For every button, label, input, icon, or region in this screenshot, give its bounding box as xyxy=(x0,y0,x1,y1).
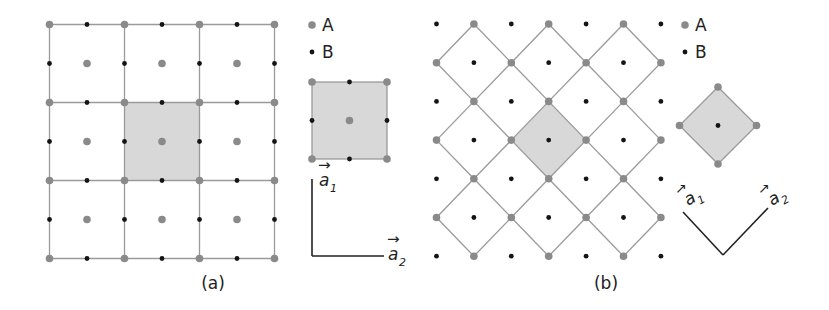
site-a xyxy=(233,216,241,224)
site-a xyxy=(233,60,241,68)
legend-a-dot xyxy=(308,21,316,29)
site-b xyxy=(546,138,551,143)
panel-b-legend: A B xyxy=(681,15,707,62)
site-a xyxy=(545,98,553,106)
panel-b-unit-cell xyxy=(676,83,761,168)
axis-a1-line xyxy=(683,212,723,255)
site-b xyxy=(272,139,277,144)
grid-line xyxy=(474,140,511,179)
site-a xyxy=(714,160,722,168)
panel-b-caption: (b) xyxy=(594,273,618,293)
site-b xyxy=(659,176,664,181)
grid-line xyxy=(549,179,586,218)
site-b xyxy=(235,256,240,261)
site-b xyxy=(47,217,52,222)
grid-line xyxy=(549,24,586,63)
site-b xyxy=(584,254,589,259)
panel-a-legend: A B xyxy=(308,15,334,62)
site-b xyxy=(584,22,589,27)
site-a xyxy=(196,99,204,107)
legend-b-dot xyxy=(683,50,688,55)
site-b xyxy=(621,215,626,220)
site-a xyxy=(508,214,516,222)
site-b xyxy=(716,123,721,128)
site-a xyxy=(271,177,279,185)
panel-a-caption: (a) xyxy=(201,273,225,293)
site-b xyxy=(122,139,127,144)
site-a xyxy=(470,20,478,28)
site-a xyxy=(582,136,590,144)
panel-b-axes: a 1 → a 2 → xyxy=(671,178,792,255)
site-a xyxy=(196,255,204,263)
site-a xyxy=(714,83,722,91)
site-a xyxy=(233,138,241,146)
site-b xyxy=(509,99,514,104)
site-b xyxy=(621,138,626,143)
site-a xyxy=(121,21,129,29)
site-b xyxy=(160,22,165,27)
site-a xyxy=(657,59,665,67)
site-b xyxy=(509,22,514,27)
site-b xyxy=(197,217,202,222)
site-a xyxy=(158,216,166,224)
site-a xyxy=(121,99,129,107)
grid-line xyxy=(474,63,511,102)
site-b xyxy=(160,178,165,183)
site-b xyxy=(85,100,90,105)
grid-line xyxy=(511,179,548,218)
legend-a-dot xyxy=(681,21,689,29)
site-a xyxy=(753,122,761,130)
site-a xyxy=(470,175,478,183)
site-a xyxy=(508,136,516,144)
site-b xyxy=(347,80,352,85)
legend-a-label: A xyxy=(695,15,707,35)
site-b xyxy=(659,22,664,27)
grid-line xyxy=(624,179,661,218)
site-b xyxy=(659,99,664,104)
lattice-figure: A B → a 1 → a 2 (a) A B a 1 → a 2 xyxy=(0,0,829,310)
site-b xyxy=(122,61,127,66)
site-b xyxy=(385,118,390,123)
site-a xyxy=(582,59,590,67)
site-b xyxy=(197,61,202,66)
site-b xyxy=(85,256,90,261)
site-a xyxy=(346,117,354,125)
grid-line xyxy=(549,218,586,257)
site-b xyxy=(472,60,477,65)
site-b xyxy=(472,138,477,143)
site-a xyxy=(46,177,54,185)
grid-line xyxy=(437,179,474,218)
site-a xyxy=(433,214,441,222)
site-a xyxy=(508,59,516,67)
site-b xyxy=(122,217,127,222)
site-a xyxy=(433,59,441,67)
site-a xyxy=(308,78,316,86)
site-a xyxy=(46,21,54,29)
grid-line xyxy=(549,63,586,102)
site-b xyxy=(310,118,315,123)
grid-line xyxy=(474,101,511,140)
grid-line xyxy=(624,140,661,179)
site-b xyxy=(546,215,551,220)
grid-line xyxy=(437,101,474,140)
site-b xyxy=(235,22,240,27)
grid-line xyxy=(624,63,661,102)
site-b xyxy=(434,254,439,259)
grid-line xyxy=(474,179,511,218)
grid-line xyxy=(511,24,548,63)
grid-line xyxy=(624,101,661,140)
site-a xyxy=(83,60,91,68)
site-a xyxy=(433,136,441,144)
site-b xyxy=(509,254,514,259)
site-b xyxy=(47,139,52,144)
site-a xyxy=(620,252,628,260)
site-a xyxy=(83,138,91,146)
grid-line xyxy=(437,63,474,102)
site-a xyxy=(158,60,166,68)
site-b xyxy=(472,215,477,220)
grid-line xyxy=(624,24,661,63)
panel-b-lattice xyxy=(433,20,665,260)
site-a xyxy=(545,20,553,28)
grid-line xyxy=(586,140,623,179)
vector-a1-label: a xyxy=(319,170,329,190)
